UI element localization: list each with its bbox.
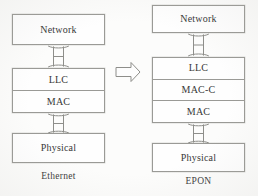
epon-layer-physical: Physical	[152, 143, 245, 172]
ethernet-llc-mac-group: LLC MAC	[12, 68, 105, 113]
epon-layer-network: Network	[152, 5, 245, 33]
ethernet-layer-llc: LLC	[13, 69, 104, 91]
double-headed-arrow-icon	[46, 113, 71, 134]
block-arrow-right-icon	[115, 61, 141, 83]
epon-layer-llc-label: LLC	[189, 63, 209, 73]
epon-layer-mac-c-label: MAC-C	[182, 85, 216, 95]
epon-llc-macc-mac-group: LLC MAC-C MAC	[152, 57, 245, 123]
ethernet-layer-llc-label: LLC	[49, 75, 69, 85]
ethernet-caption: Ethernet	[12, 171, 105, 181]
ethernet-layer-mac-label: MAC	[47, 97, 70, 107]
epon-caption: EPON	[152, 176, 245, 186]
epon-layer-network-label: Network	[180, 14, 216, 24]
ethernet-layer-physical-label: Physical	[41, 143, 77, 153]
ethernet-layer-mac: MAC	[13, 91, 104, 112]
epon-layer-mac: MAC	[153, 101, 244, 122]
ethernet-connector-network-llc	[46, 45, 71, 68]
ethernet-layer-network: Network	[12, 14, 105, 45]
ethernet-layer-physical: Physical	[12, 133, 105, 163]
transition-arrow	[115, 61, 141, 83]
ethernet-layer-network-label: Network	[40, 25, 76, 35]
epon-connector-network-llc	[186, 33, 211, 57]
double-headed-arrow-icon	[186, 33, 211, 57]
figure-protocol-stack-comparison: Network LLC MAC	[0, 0, 258, 196]
epon-layer-llc: LLC	[153, 58, 244, 80]
epon-connector-mac-physical	[186, 123, 211, 144]
epon-layer-physical-label: Physical	[181, 153, 217, 163]
double-headed-arrow-icon	[46, 45, 71, 68]
double-headed-arrow-icon	[186, 123, 211, 144]
epon-layer-mac-c: MAC-C	[153, 80, 244, 102]
epon-layer-mac-label: MAC	[187, 107, 210, 117]
ethernet-connector-mac-physical	[46, 113, 71, 134]
